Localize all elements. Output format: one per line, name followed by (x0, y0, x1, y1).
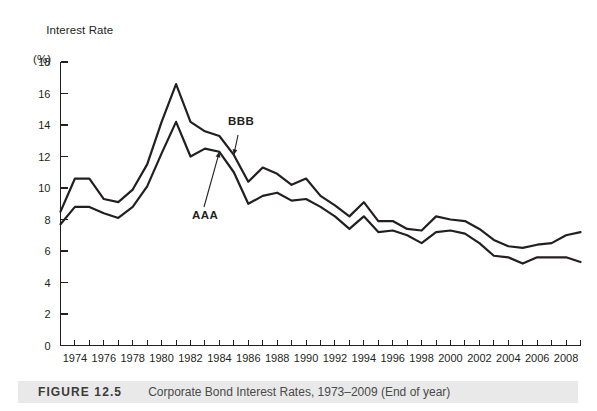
y-axis-tick-label: 8 (44, 214, 50, 226)
x-axis-tick-label: 1978 (120, 352, 144, 364)
x-axis-tick-label: 2000 (438, 352, 462, 364)
x-axis-tick-label: 1982 (178, 352, 202, 364)
y-axis-tick-label: 14 (38, 119, 50, 131)
x-axis-tick-label: 2008 (554, 352, 578, 364)
figure-container: Interest Rate (%) 024681012141618 197419… (0, 0, 597, 411)
x-axis-tick-label: 1986 (236, 352, 260, 364)
figure-caption-bar: FIGURE 12.5 Corporate Bond Interest Rate… (18, 381, 578, 403)
x-axis-tick-label: 1990 (294, 352, 318, 364)
series-annotations: BBBAAA (192, 115, 254, 221)
series-label-bbb: BBB (228, 115, 254, 127)
y-axis-tick-label: 6 (44, 245, 50, 257)
x-axis-tick-label: 1980 (149, 352, 173, 364)
x-axis: 1974197619781980198219841986198819901992… (61, 340, 581, 364)
y-axis-tick-label: 10 (38, 182, 50, 194)
x-axis-tick-label: 1998 (409, 352, 433, 364)
x-axis-tick-label: 1994 (352, 352, 376, 364)
y-axis-tick-label: 4 (44, 277, 50, 289)
x-axis-tick-label: 2002 (467, 352, 491, 364)
x-axis-tick-label: 1974 (63, 352, 87, 364)
y-axis-tick-label: 12 (38, 151, 50, 163)
x-axis-tick-label: 1976 (92, 352, 116, 364)
data-series-group (61, 84, 581, 264)
series-line-bbb (61, 84, 581, 248)
x-axis-tick-label: 1988 (265, 352, 289, 364)
x-axis-tick-label: 1992 (323, 352, 347, 364)
x-axis-tick-label: 1984 (207, 352, 231, 364)
y-axis-tick-label: 16 (38, 88, 50, 100)
series-line-aaa (61, 122, 581, 264)
x-axis-tick-label: 2006 (525, 352, 549, 364)
y-axis-tick-label: 2 (44, 308, 50, 320)
figure-number-label: FIGURE 12.5 (38, 385, 122, 399)
line-chart: 024681012141618 197419761978198019821984… (0, 0, 597, 381)
leader-line-aaa (204, 152, 219, 207)
y-axis-tick-label: 0 (44, 340, 50, 352)
figure-caption-text: Corporate Bond Interest Rates, 1973–2009… (148, 385, 450, 399)
series-label-aaa: AAA (192, 209, 218, 221)
y-axis-tick-label: 18 (38, 56, 50, 68)
x-axis-tick-label: 1996 (380, 352, 404, 364)
x-axis-tick-label: 2004 (496, 352, 520, 364)
